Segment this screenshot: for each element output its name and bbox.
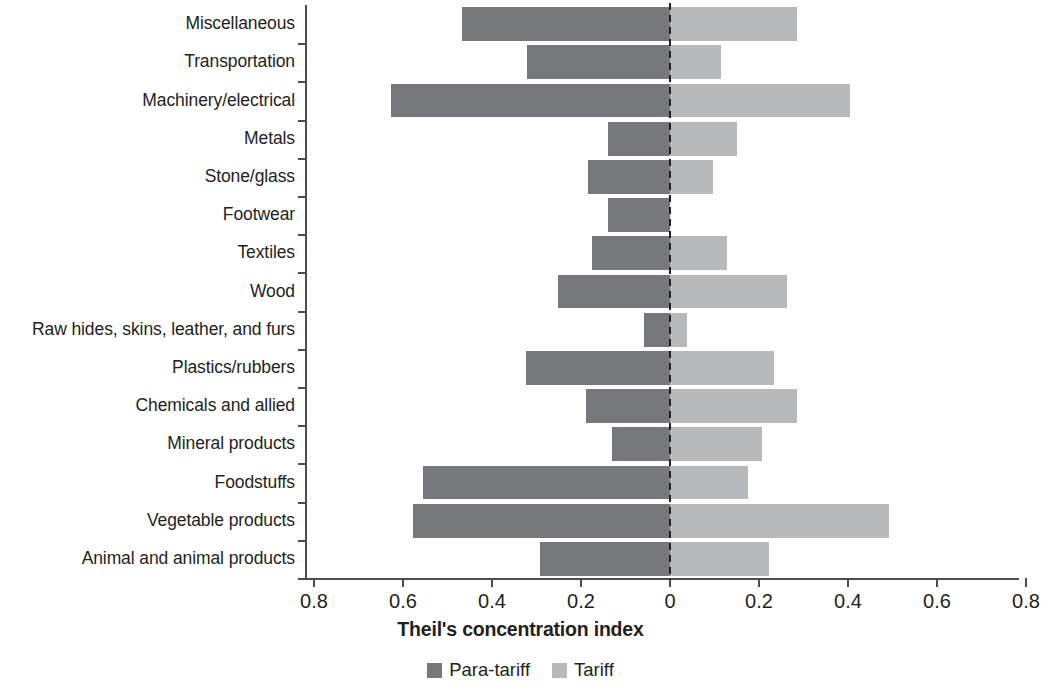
category-label: Stone/glass	[0, 168, 295, 186]
bar-row	[305, 466, 1019, 500]
bar-row	[305, 160, 1019, 194]
legend-swatch-icon	[552, 663, 567, 678]
category-label: Chemicals and allied	[0, 397, 295, 415]
bar-para-tariff	[558, 275, 670, 309]
bar-para-tariff	[423, 466, 670, 500]
bar-para-tariff	[592, 236, 670, 270]
bar-para-tariff	[527, 45, 670, 79]
bar-row	[305, 389, 1019, 423]
bar-para-tariff	[391, 84, 670, 118]
category-label: Wood	[0, 283, 295, 301]
category-label: Transportation	[0, 53, 295, 71]
bar-row	[305, 236, 1019, 270]
bar-para-tariff	[413, 504, 670, 538]
bar-para-tariff	[644, 313, 670, 347]
bar-tariff	[670, 351, 774, 385]
bar-tariff	[670, 84, 850, 118]
x-axis-tick	[847, 578, 849, 587]
x-axis-tick	[758, 578, 760, 587]
bar-para-tariff	[540, 542, 670, 576]
bar-row	[305, 198, 1019, 232]
bar-tariff	[670, 542, 769, 576]
category-axis-labels: MiscellaneousTransportationMachinery/ele…	[0, 5, 303, 578]
x-axis-tick	[580, 578, 582, 587]
bar-row	[305, 84, 1019, 118]
x-axis-tick-label: 0.2	[551, 591, 611, 611]
x-axis-tick-label: 0.2	[729, 591, 789, 611]
x-axis-tick-label: 0.8	[284, 591, 344, 611]
x-axis-line	[305, 578, 1019, 580]
category-label: Textiles	[0, 244, 295, 262]
bar-tariff	[670, 427, 762, 461]
x-axis-tick-label: 0.4	[462, 591, 522, 611]
category-label: Footwear	[0, 206, 295, 224]
x-axis-title: Theil's concentration index	[0, 618, 1041, 641]
bar-row	[305, 275, 1019, 309]
bar-row	[305, 45, 1019, 79]
bar-para-tariff	[586, 389, 670, 423]
bar-tariff	[670, 466, 748, 500]
bar-row	[305, 427, 1019, 461]
category-label: Mineral products	[0, 435, 295, 453]
x-axis-tick-label: 0.4	[818, 591, 878, 611]
category-label: Foodstuffs	[0, 474, 295, 492]
x-axis-tick	[491, 578, 493, 587]
bar-tariff	[670, 313, 687, 347]
bar-para-tariff	[612, 427, 670, 461]
zero-reference-line	[669, 3, 671, 580]
x-axis-tick-label: 0	[640, 591, 700, 611]
x-axis-tick	[936, 578, 938, 587]
bar-tariff	[670, 504, 889, 538]
bar-para-tariff	[462, 7, 670, 41]
x-axis-tick	[313, 578, 315, 587]
bar-tariff	[670, 275, 787, 309]
x-axis-tick-label: 0.8	[996, 591, 1041, 611]
x-axis-tick	[402, 578, 404, 587]
bar-tariff	[670, 7, 797, 41]
x-axis-tick-label: 0.6	[907, 591, 967, 611]
legend-entry[interactable]: Para-tariff	[427, 661, 530, 680]
category-label: Animal and animal products	[0, 550, 295, 568]
category-label: Plastics/rubbers	[0, 359, 295, 377]
x-axis-tick-label: 0.6	[373, 591, 433, 611]
plot-area: 0.80.60.40.200.20.40.60.8	[305, 5, 1019, 578]
bar-row	[305, 122, 1019, 156]
x-axis-tick	[1025, 578, 1027, 587]
bar-para-tariff	[608, 198, 670, 232]
category-label: Metals	[0, 130, 295, 148]
category-label: Miscellaneous	[0, 15, 295, 33]
bar-para-tariff	[588, 160, 670, 194]
bar-tariff	[670, 160, 713, 194]
bar-row	[305, 542, 1019, 576]
bar-row	[305, 504, 1019, 538]
bar-row	[305, 351, 1019, 385]
chart-legend: Para-tariffTariff	[0, 661, 1041, 680]
theil-concentration-index-chart: MiscellaneousTransportationMachinery/ele…	[0, 0, 1041, 694]
bar-tariff	[670, 122, 737, 156]
bar-row	[305, 7, 1019, 41]
bar-row	[305, 313, 1019, 347]
legend-label: Para-tariff	[449, 661, 530, 680]
bar-tariff	[670, 45, 721, 79]
bar-para-tariff	[608, 122, 670, 156]
bar-tariff	[670, 236, 727, 270]
category-label: Vegetable products	[0, 512, 295, 530]
legend-swatch-icon	[427, 663, 442, 678]
y-axis-tick	[298, 578, 307, 580]
category-label: Raw hides, skins, leather, and furs	[0, 321, 295, 339]
bar-tariff	[670, 389, 797, 423]
legend-label: Tariff	[574, 661, 614, 680]
category-label: Machinery/electrical	[0, 92, 295, 110]
bar-para-tariff	[526, 351, 670, 385]
legend-entry[interactable]: Tariff	[552, 661, 614, 680]
